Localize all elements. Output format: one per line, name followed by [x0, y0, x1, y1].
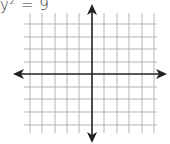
x-axis — [13, 69, 167, 79]
grid-lines — [24, 13, 157, 133]
coordinate-grid — [0, 0, 170, 144]
